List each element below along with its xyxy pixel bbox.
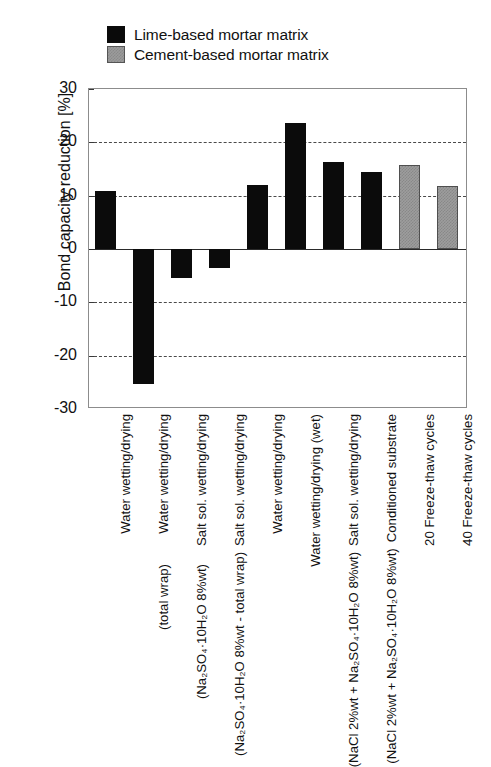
y-tick-label: 30 [59, 80, 77, 96]
x-axis-label-line: (NaCl 2%wt + Na₂SO₄·10H₂O 8%wt) [346, 546, 361, 767]
bar [399, 165, 420, 249]
y-tick-mark [89, 302, 94, 303]
x-axis-label: Salt sol. wetting/drying(Na₂SO₄·10H₂O 8%… [194, 408, 232, 708]
y-tick-label: -10 [54, 293, 77, 309]
chart-legend: Lime-based mortar matrix Cement-based mo… [107, 26, 329, 63]
x-axis-label: Salt sol. wetting/drying(NaCl 2%wt + Na₂… [346, 408, 384, 708]
plot-area [88, 88, 467, 408]
x-axis-label-line: Conditioned substrate [384, 408, 399, 542]
legend-label-cement: Cement-based mortar matrix [134, 46, 329, 63]
legend-swatch-gray-icon [107, 46, 125, 63]
y-axis-tick-labels: 3020100-10-20-30 [0, 0, 88, 714]
legend-label-lime: Lime-based mortar matrix [134, 26, 308, 43]
x-axis-label: 20 Freeze-thaw cycles [422, 408, 460, 708]
y-tick-label: 20 [59, 133, 77, 149]
x-axis-label-line: Water wetting/drying [270, 408, 285, 708]
bar [437, 186, 458, 249]
x-axis-label-line: Salt sol. wetting/drying [194, 408, 209, 558]
y-tick-mark [89, 196, 94, 197]
x-axis-label-line: Water wetting/drying [118, 408, 133, 708]
x-axis-category-labels: Water wetting/dryingWater wetting/drying… [88, 408, 467, 708]
x-axis-label: Conditioned substrate(NaCl 2%wt + Na₂SO₄… [384, 408, 422, 708]
y-tick-label: 0 [68, 240, 77, 256]
legend-swatch-black-icon [107, 26, 125, 43]
bar [361, 172, 382, 249]
x-axis-label-line: (Na₂SO₄·10H₂O 8%wt) [194, 558, 209, 708]
x-axis-label: 40 Freeze-thaw cycles [460, 408, 491, 708]
x-axis-label: Salt sol. wetting/drying(Na₂SO₄·10H₂O 8%… [232, 408, 270, 708]
x-axis-label: Water wetting/drying [118, 408, 156, 708]
x-axis-label-line: 20 Freeze-thaw cycles [422, 408, 437, 708]
legend-item-cement: Cement-based mortar matrix [107, 46, 329, 63]
x-axis-label-line: Salt sol. wetting/drying [232, 408, 247, 546]
y-tick-label: -20 [54, 347, 77, 363]
y-tick-label: -30 [54, 400, 77, 416]
x-axis-label-line: 40 Freeze-thaw cycles [460, 408, 475, 708]
x-axis-label: Water wetting/drying(total wrap) [156, 408, 194, 708]
x-axis-label-line: Water wetting/drying (wet) [308, 408, 323, 708]
y-tick-mark [89, 89, 94, 90]
bar [323, 162, 344, 249]
y-tick-mark [89, 356, 94, 357]
y-tick-mark [89, 142, 94, 143]
x-axis-label: Water wetting/drying (wet) [308, 408, 346, 708]
bar [171, 249, 192, 278]
bar [209, 249, 230, 268]
legend-item-lime: Lime-based mortar matrix [107, 26, 329, 43]
bar [133, 249, 154, 384]
x-axis-label-line: (Na₂SO₄·10H₂O 8%wt - total wrap) [232, 546, 247, 756]
y-tick-label: 10 [59, 187, 77, 203]
bar [95, 191, 116, 249]
x-axis-label-line: Water wetting/drying [156, 408, 171, 558]
x-axis-label-line: (total wrap) [156, 558, 171, 708]
x-axis-label-line: (NaCl 2%wt + Na₂SO₄·10H₂O 8%wt) [384, 542, 399, 763]
x-axis-label: Water wetting/drying [270, 408, 308, 708]
gridline [89, 142, 466, 143]
bar [285, 123, 306, 249]
x-axis-label-line: Salt sol. wetting/drying [346, 408, 361, 546]
bar [247, 185, 268, 249]
